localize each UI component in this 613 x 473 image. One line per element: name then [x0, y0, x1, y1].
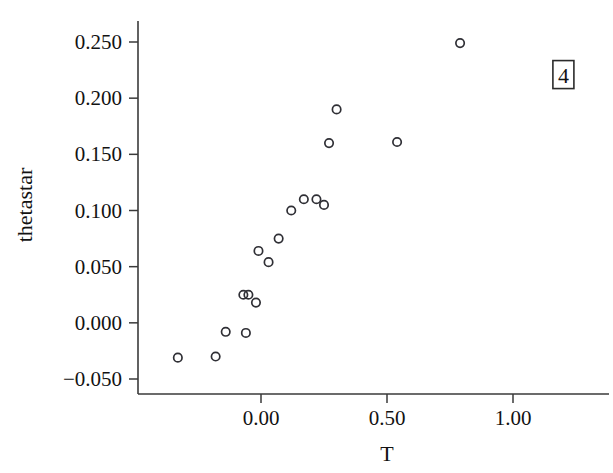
axes: [138, 21, 609, 394]
data-point: [254, 247, 262, 255]
axis-tick-labels: −0.0500.0000.0500.1000.1500.2000.2500.00…: [63, 30, 531, 430]
point-annotations: 4: [553, 61, 574, 89]
data-point: [312, 195, 320, 203]
data-point: [456, 39, 464, 47]
data-points: [174, 39, 563, 362]
annotation-label: 4: [558, 63, 569, 88]
y-axis-tick-label: 0.050: [75, 255, 122, 279]
y-axis-tick-label: 0.250: [75, 30, 122, 54]
x-axis-title: T: [380, 441, 394, 466]
data-point: [242, 329, 250, 337]
data-point: [287, 206, 295, 214]
data-point: [332, 105, 340, 113]
scatter-plot-figure: −0.0500.0000.0500.1000.1500.2000.2500.00…: [0, 0, 613, 473]
data-point: [264, 258, 272, 266]
data-point: [320, 201, 328, 209]
x-axis-tick-label: 0.50: [369, 406, 406, 430]
data-point: [174, 353, 182, 361]
data-point: [325, 139, 333, 147]
y-axis-tick-label: 0.000: [75, 311, 122, 335]
y-axis-tick-label: 0.200: [75, 86, 122, 110]
plot-canvas: −0.0500.0000.0500.1000.1500.2000.2500.00…: [0, 0, 613, 473]
y-axis-title: thetastar: [12, 167, 37, 242]
data-point: [252, 298, 260, 306]
x-axis-tick-label: 1.00: [495, 406, 532, 430]
data-point: [300, 195, 308, 203]
x-axis-tick-label: 0.00: [243, 406, 280, 430]
data-point: [393, 138, 401, 146]
axis-ticks: [129, 42, 513, 403]
y-axis-tick-label: 0.150: [75, 142, 122, 166]
data-point: [274, 234, 282, 242]
data-point: [211, 352, 219, 360]
y-axis-tick-label: 0.100: [75, 199, 122, 223]
data-point: [222, 328, 230, 336]
y-axis-tick-label: −0.050: [63, 367, 122, 391]
